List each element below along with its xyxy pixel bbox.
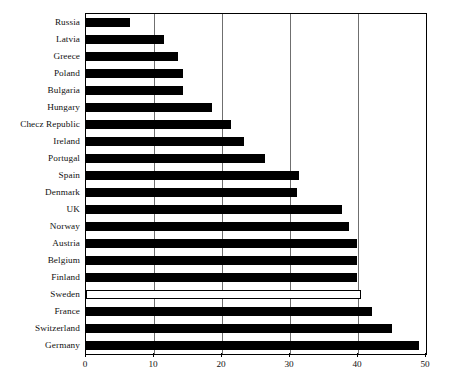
bar-france [86,307,372,316]
x-tick-mark-50 [425,353,426,357]
bar-row [86,14,426,32]
x-tick-label: 50 [420,359,429,370]
x-tick-mark-40 [357,353,358,357]
x-tick-label: 0 [83,359,88,370]
category-label: Spain [5,170,85,180]
category-label: Denmark [5,187,85,197]
x-tick-mark-30 [289,353,290,357]
plot-area [85,13,427,355]
y-axis-category-labels: RussiaLatviaGreecePolandBulgariaHungaryC… [0,13,85,353]
category-label: UK [5,204,85,214]
x-tick-label: 20 [216,359,225,370]
category-label: Greece [5,51,85,61]
category-label: Austria [5,238,85,248]
x-tick-mark-10 [153,353,154,357]
bar-row [86,133,426,151]
bar-spain [86,171,299,180]
category-label: Ireland [5,136,85,146]
category-label: France [5,306,85,316]
category-label: Norway [5,221,85,231]
bar-row [86,65,426,83]
bar-switzerland [86,324,392,333]
bar-germany [86,341,419,350]
bar-row [86,116,426,134]
x-axis: 01020304050 [85,353,426,383]
bar-belgium [86,256,357,265]
category-label: Portugal [5,153,85,163]
bar-bulgaria [86,86,183,95]
category-label: Germany [5,340,85,350]
bar-sweden [86,290,361,299]
bar-norway [86,222,349,231]
category-label: Finland [5,272,85,282]
bar-portugal [86,154,265,163]
bar-row [86,184,426,202]
bar-row [86,303,426,321]
bar-checz-republic [86,120,231,129]
bar-row [86,167,426,185]
bar-row [86,269,426,287]
bar-row [86,99,426,117]
x-tick-label: 10 [148,359,157,370]
bar-ireland [86,137,244,146]
bar-poland [86,69,183,78]
category-label: Checz Republic [5,119,85,129]
category-label: Poland [5,68,85,78]
bar-row [86,150,426,168]
bar-row [86,286,426,304]
category-label: Hungary [5,102,85,112]
bar-latvia [86,35,164,44]
category-label: Latvia [5,34,85,44]
bar-russia [86,18,130,27]
bar-uk [86,205,342,214]
x-tick-label: 40 [352,359,361,370]
bar-greece [86,52,178,61]
x-tick-mark-0 [85,353,86,357]
category-label: Bulgaria [5,85,85,95]
x-tick-mark-20 [221,353,222,357]
category-label: Belgium [5,255,85,265]
bar-row [86,201,426,219]
category-label: Switzerland [5,323,85,333]
bar-row [86,82,426,100]
bar-row [86,218,426,236]
bar-austria [86,239,357,248]
bar-row [86,235,426,253]
x-tick-label: 30 [284,359,293,370]
bar-denmark [86,188,297,197]
category-label: Sweden [5,289,85,299]
bar-chart: RussiaLatviaGreecePolandBulgariaHungaryC… [0,0,452,389]
bar-row [86,320,426,338]
category-label: Russia [5,17,85,27]
bar-finland [86,273,357,282]
bar-hungary [86,103,212,112]
bar-row [86,252,426,270]
bar-row [86,31,426,49]
bar-row [86,48,426,66]
